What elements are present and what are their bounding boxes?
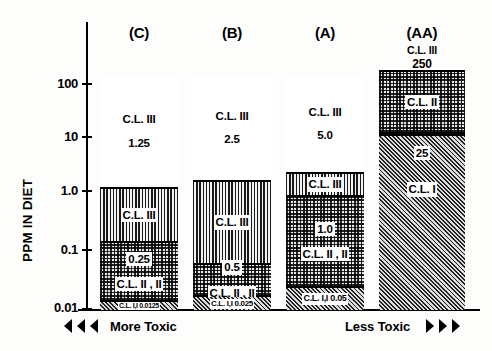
left-arrow-icon [77,319,85,333]
y-tick-label-0-1: 0.1 [32,243,78,256]
bar-b-cl3-open-value: 2.5 [224,132,239,146]
bar-c-cl2-value: 0.25 [126,252,152,266]
more-toxic-label: More Toxic [110,319,177,334]
bar-a-segment-cl3-band: C.L. III [286,172,364,197]
less-toxic-arrows [426,319,460,333]
y-axis-line [86,22,88,310]
bar-a-cl3-open-label: C.L. III [309,105,342,119]
bar-a: C.L. III 5.0 C.L. III 1.0 C.L. II , II C… [286,75,364,310]
right-arrow-icon [439,319,447,333]
y-tick-label-0-01: 0.01 [24,301,78,314]
bar-a-segment-cl1: C.L. I,I 0.05 [286,288,364,310]
bar-aa-cl1-label: C.L. I [407,182,438,196]
y-tick-0-01 [82,308,92,310]
chart-canvas: PPM IN DIET 100 10 1.0 0.1 0.01 (C) (B) … [0,0,492,351]
right-arrow-icon [452,319,460,333]
less-toxic-label: Less Toxic [345,319,410,334]
bar-c: C.L. III 1.25 C.L. III 0.25 C.L. II , II… [100,75,178,310]
more-toxic-arrows [64,319,98,333]
bar-b-cl2-value: 0.5 [222,260,241,274]
bar-a-segment-cl2: 1.0 C.L. II , II [286,197,364,288]
y-tick-label-10: 10 [36,130,78,143]
bar-c-segment-cl3-band: C.L. III [100,187,178,243]
bar-c-segment-cl1: C.L. I,I 0.0125 [100,302,178,310]
bar-b-cl1-label: C.L. I,I 0.025 [210,299,254,309]
y-tick-label-100: 100 [36,77,78,90]
bar-a-segment-cl3-open: C.L. III 5.0 [286,75,364,172]
bar-b-segment-cl3-open: C.L. III 2.5 [193,75,271,180]
bar-aa-segment-cl2: C.L. II [379,72,465,134]
bar-a-cl3-band-label: C.L. III [307,177,344,191]
bar-b-segment-cl1: C.L. I,I 0.025 [193,297,271,310]
bar-aa-segment-cl1: 25 C.L. I [379,134,465,310]
bar-a-cl2-value: 1.0 [315,222,334,236]
aa-above-label-value: 250 [379,57,465,71]
bar-a-cl3-open-value: 5.0 [317,128,332,142]
bar-c-cl2-label: C.L. II , II [115,277,164,291]
left-arrow-icon [64,319,72,333]
bar-c-cl3-open-value: 1.25 [128,136,150,150]
bar-c-cl1-label: C.L. I,I 0.0125 [118,302,160,311]
bar-b: C.L. III 2.5 C.L. III 0.5 C.L. II , II C… [193,75,271,310]
bar-c-segment-cl2: 0.25 C.L. II , II [100,243,178,302]
y-tick-1 [82,190,92,192]
bar-a-cl2-label: C.L. II , II [301,247,350,261]
bar-c-segment-cl3-open: C.L. III 1.25 [100,75,178,187]
y-tick-0-1 [82,249,92,251]
aa-above-label-class: C.L. III [379,44,465,56]
bar-aa-cl2-label: C.L. II [405,95,439,109]
bar-b-segment-cl3-band: C.L. III [193,180,271,265]
bar-c-cl3-open-label: C.L. III [123,112,156,126]
bar-a-cl1-label: C.L. I,I 0.05 [302,293,347,304]
bar-b-cl3-open-label: C.L. III [216,109,249,123]
bar-b-cl3-band-label: C.L. III [214,215,251,229]
y-tick-10 [82,136,92,138]
column-header-c: (C) [100,24,178,41]
column-header-aa: (AA) [379,24,465,41]
right-arrow-icon [426,319,434,333]
bar-aa-cl1-value: 25 [414,146,430,160]
column-header-a: (A) [286,24,364,41]
y-tick-100 [82,83,92,85]
bar-aa: C.L. II 25 C.L. I [379,70,465,310]
y-tick-label-1: 1.0 [32,184,78,197]
bar-b-segment-cl2: 0.5 C.L. II , II [193,265,271,297]
column-header-b: (B) [193,24,271,41]
left-arrow-icon [90,319,98,333]
bar-c-cl3-band-label: C.L. III [121,208,158,222]
